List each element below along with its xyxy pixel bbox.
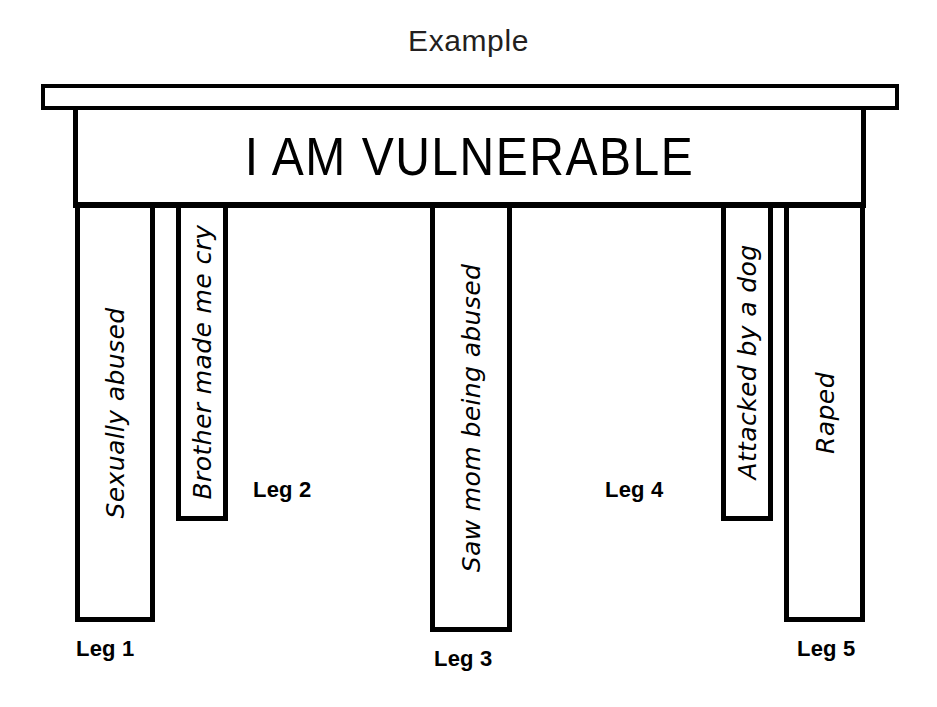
leg-4-label: Attacked by a dog xyxy=(733,244,762,479)
leg-2-caption: Leg 2 xyxy=(253,477,311,503)
leg-1-label: Sexually abused xyxy=(101,307,130,518)
diagram-title: Example xyxy=(0,26,937,56)
leg-1: Sexually abused xyxy=(75,208,155,622)
leg-5-caption: Leg 5 xyxy=(797,636,855,662)
leg-5-label: Raped xyxy=(810,372,839,454)
leg-3: Saw mom being abused xyxy=(430,208,512,632)
leg-1-body: Sexually abused xyxy=(75,208,155,622)
leg-2-body: Brother made me cry xyxy=(176,208,228,521)
leg-2: Brother made me cry xyxy=(176,208,228,521)
leg-3-body: Saw mom being abused xyxy=(430,208,512,632)
leg-5: Raped xyxy=(784,208,865,622)
tabletop-headline: I AM VULNERABLE xyxy=(78,104,861,207)
leg-3-caption: Leg 3 xyxy=(434,646,492,672)
leg-4-caption: Leg 4 xyxy=(605,477,663,503)
diagram-canvas: Example I AM VULNERABLE Sexually abused … xyxy=(0,0,937,707)
leg-2-label: Brother made me cry xyxy=(188,225,217,500)
tabletop-apron: I AM VULNERABLE xyxy=(73,110,866,208)
leg-3-label: Saw mom being abused xyxy=(457,263,486,572)
leg-5-body: Raped xyxy=(784,208,865,622)
leg-1-caption: Leg 1 xyxy=(76,636,134,662)
leg-4: Attacked by a dog xyxy=(721,208,773,521)
leg-4-body: Attacked by a dog xyxy=(721,208,773,521)
